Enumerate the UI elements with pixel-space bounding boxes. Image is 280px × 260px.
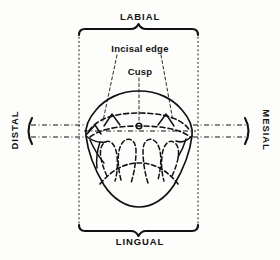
tooth-occlusal-diagram: LABIAL Incisal edge Cusp DISTAL MESIAL L… [0, 0, 280, 260]
mesial-bracket [245, 118, 249, 144]
distal-detail-stroke-1 [86, 136, 105, 142]
lingual-brace [79, 225, 198, 236]
label-distal: DISTAL [9, 111, 20, 150]
incisal-edge-leader-left [103, 55, 117, 121]
labial-brace [79, 24, 198, 35]
label-cusp: Cusp [0, 66, 280, 77]
lingual-fossa-arc [100, 163, 178, 184]
developmental-lobes [100, 139, 178, 183]
lobe-1 [118, 139, 136, 183]
label-lingual: LINGUAL [0, 236, 280, 247]
incisal-edge-leader-right [161, 55, 173, 121]
incisal-edge-leaders [103, 55, 173, 121]
label-mesial: MESIAL [261, 109, 272, 150]
distal-bracket [29, 118, 33, 144]
label-labial: LABIAL [0, 11, 280, 22]
lobe-2 [143, 139, 161, 183]
diagram-canvas [0, 0, 280, 260]
label-incisal-edge: Incisal edge [0, 43, 280, 54]
